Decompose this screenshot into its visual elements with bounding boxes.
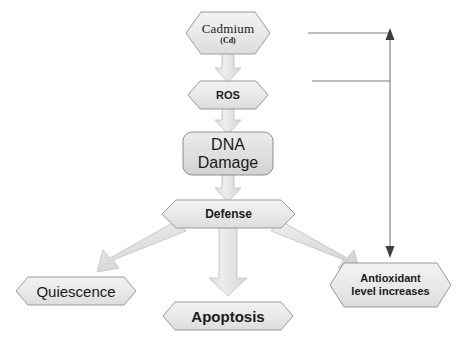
connector-defense-to-quiescence [97, 221, 186, 272]
node-dna-damage[interactable] [183, 132, 273, 175]
connector-ros-to-dna [215, 108, 241, 134]
connector-feedback-loop [308, 28, 395, 258]
node-ros[interactable] [188, 81, 268, 109]
node-apoptosis[interactable] [163, 302, 293, 330]
diagram-canvas: Cadmium (Cd) ROS DNA Damage Defense Quie… [0, 0, 456, 337]
pathway-diagram [0, 0, 456, 337]
node-defense[interactable] [162, 200, 295, 228]
connector-dna-to-defense [215, 174, 241, 202]
node-cadmium[interactable] [186, 12, 270, 54]
node-antioxidant[interactable] [330, 263, 451, 307]
node-quiescence[interactable] [16, 277, 136, 305]
connector-defense-to-apoptosis [209, 228, 247, 296]
